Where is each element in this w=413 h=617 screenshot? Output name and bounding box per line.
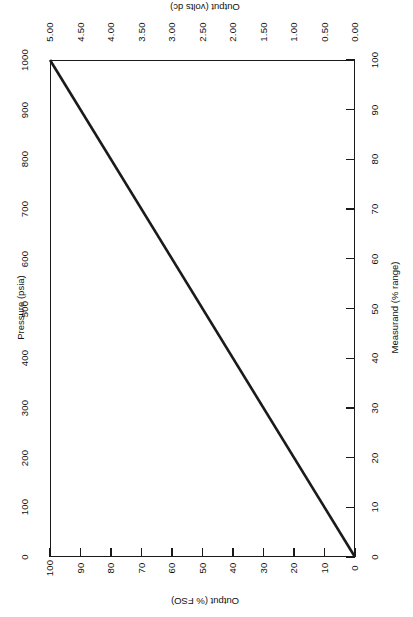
pressure-tick-label: 1000 [19,43,31,77]
measurand-tick-label: 40 [369,343,381,373]
measurand-tick-mark [346,109,355,110]
output-volts-tick-label: 2.50 [197,15,209,49]
output-fso-tick-label: 10 [319,553,331,583]
measurand-tick-label: 10 [369,492,381,522]
pressure-axis-title: Pressure (psia) [15,260,26,356]
measurand-tick-label: 70 [369,194,381,224]
measurand-tick-mark [346,258,355,259]
output-fso-tick-label: 40 [227,553,239,583]
output-volts-tick-label: 4.50 [75,15,87,49]
output-fso-axis-title: Output (% FSO) [130,596,280,607]
measurand-tick-label: 20 [369,443,381,473]
output-fso-tick-label: 0 [349,553,361,583]
measurand-tick-mark [346,358,355,359]
output-fso-tick-label: 70 [136,553,148,583]
measurand-tick-label: 30 [369,393,381,423]
measurand-tick-mark [346,457,355,458]
output-fso-tick-label: 100 [44,553,56,583]
output-fso-tick-label: 90 [75,553,87,583]
measurand-tick-label: 80 [369,144,381,174]
measurand-tick-label: 50 [369,294,381,324]
measurand-tick-mark [346,308,355,309]
output-volts-tick-label: 1.00 [288,15,300,49]
measurand-tick-mark [346,208,355,209]
pressure-tick-label: 0 [19,540,31,574]
measurand-tick-mark [346,159,355,160]
measurand-tick-mark [346,59,355,60]
pressure-tick-label: 700 [19,192,31,226]
output-volts-tick-label: 5.00 [44,15,56,49]
measurand-tick-label: 90 [369,95,381,125]
output-volts-tick-label: 3.50 [136,15,148,49]
output-fso-tick-label: 50 [197,553,209,583]
output-fso-tick-label: 20 [288,553,300,583]
output-volts-tick-label: 1.50 [258,15,270,49]
output-volts-tick-label: 2.00 [227,15,239,49]
pressure-tick-label: 200 [19,441,31,475]
measurand-tick-label: 0 [369,542,381,572]
chart-figure: 01002003004005006007008009001000 5.004.5… [0,0,413,617]
measurand-tick-mark [346,507,355,508]
measurand-tick-label: 60 [369,244,381,274]
output-volts-tick-label: 4.00 [105,15,117,49]
output-fso-tick-label: 30 [258,553,270,583]
output-volts-tick-label: 0.00 [349,15,361,49]
output-fso-tick-label: 60 [166,553,178,583]
measurand-tick-marks [50,60,355,557]
output-fso-tick-label: 80 [105,553,117,583]
output-volts-axis-title: Output (volts dc) [132,2,278,13]
pressure-tick-label: 300 [19,391,31,425]
measurand-tick-mark [346,407,355,408]
pressure-tick-label: 800 [19,142,31,176]
pressure-tick-label: 900 [19,93,31,127]
measurand-axis-title: Measurand (% range) [389,248,400,368]
measurand-tick-label: 100 [369,45,381,75]
output-volts-tick-label: 3.00 [166,15,178,49]
pressure-tick-label: 100 [19,490,31,524]
output-volts-tick-label: 0.50 [319,15,331,49]
